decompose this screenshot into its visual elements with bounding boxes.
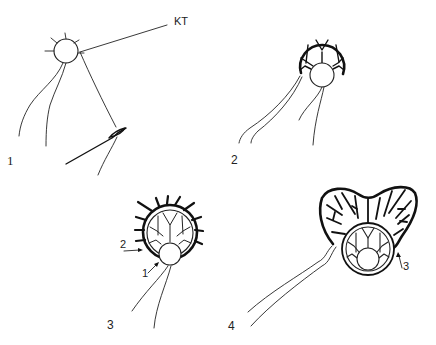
panel-4-arrowhead-3 <box>396 252 401 257</box>
panel-4-arrow-3 <box>399 256 402 268</box>
panel-3-stalk-2 <box>154 266 171 328</box>
panel-2-stalk-2 <box>251 77 302 143</box>
kt-label: KT <box>174 15 188 27</box>
panel-2-stalk-3 <box>299 87 322 120</box>
panel-1-thread <box>80 52 116 127</box>
panel-1-tail <box>98 137 117 175</box>
panel-4-annotation-3: 3 <box>403 260 409 272</box>
panel-3-stalk-1 <box>132 266 168 311</box>
panel-3-arrow-2 <box>124 250 140 251</box>
panel-3-inner-circle <box>159 243 181 265</box>
panel-1-stalk-mid <box>46 63 66 146</box>
panel-4: 3 4 <box>228 187 417 333</box>
panel-3: 2 1 3 <box>107 196 203 332</box>
panel-3-label: 3 <box>107 318 114 332</box>
panel-2-label: 2 <box>231 153 238 167</box>
panel-2-inner-circle <box>310 63 334 87</box>
panel-2: 2 <box>231 40 344 167</box>
panel-4-stalk-2 <box>251 247 336 326</box>
panel-1-needle <box>66 128 126 164</box>
panel-2-stalk-1 <box>239 76 300 143</box>
panel-2-stalk-4 <box>313 87 324 145</box>
panel-4-inner-circle <box>357 248 379 270</box>
panel-3-veins <box>149 213 191 244</box>
panel-1: KT 1 <box>7 15 188 175</box>
panel-4-label: 4 <box>228 319 235 333</box>
four-stage-diagram: KT 1 2 <box>0 0 436 345</box>
panel-3-arrowhead-2 <box>138 248 143 252</box>
panel-3-annotation-1: 1 <box>142 267 148 279</box>
panel-1-label: 1 <box>7 153 14 168</box>
panel-4-stalk-1 <box>248 246 332 312</box>
panel-3-annotation-2: 2 <box>120 238 126 250</box>
panel-1-stalk-left <box>19 63 63 136</box>
kt-leader-line <box>80 25 167 52</box>
